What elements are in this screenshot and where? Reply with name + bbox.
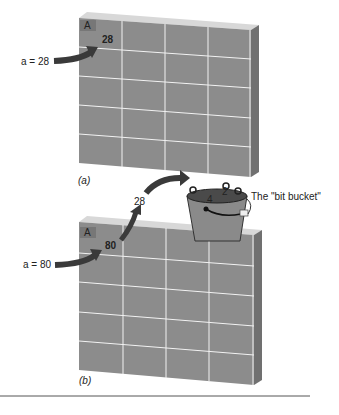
assignment-b: a = 80 [23,259,52,270]
cell-value-b: 80 [105,240,117,251]
cell-label-a: A [84,20,91,31]
memory-block-side-edge [254,230,262,385]
discarded-value: 28 [134,196,146,207]
to-bucket-arrow-icon [146,178,180,193]
caption-b: (b) [79,375,91,386]
bit-bucket-label: The "bit bucket" [251,191,321,202]
assignment-a: a = 28 [21,56,50,67]
bit-bucket-icon: 4 2 [187,183,251,241]
cell-label-b: A [84,227,91,238]
cell-value-a: 28 [102,34,114,45]
caption-a: (a) [78,175,90,186]
bucket-digit: 2 [222,186,228,197]
memory-diagram: A 28 a = 28 (a) A 80 a = 80 28 (b) [0,0,339,415]
bucket-digit: 4 [207,194,213,205]
memory-block-side-edge [251,25,259,177]
panel-a: A 28 a = 28 (a) [21,12,259,186]
